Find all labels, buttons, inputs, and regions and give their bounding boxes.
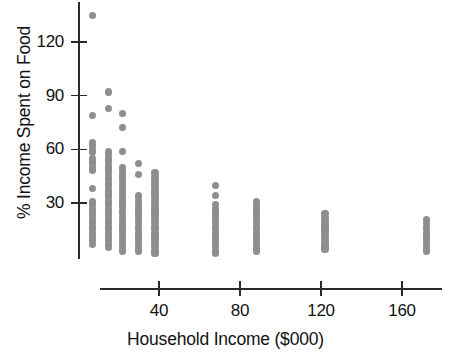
y-axis-title: % Income Spent on Food: [14, 13, 35, 233]
data-point: [135, 160, 142, 167]
data-point: [105, 105, 112, 112]
data-point: [119, 110, 126, 117]
data-point: [119, 148, 126, 155]
data-point: [89, 112, 96, 119]
data-point: [151, 249, 158, 256]
data-point: [135, 171, 142, 178]
data-point: [212, 249, 219, 256]
data-point: [89, 167, 96, 174]
data-points-layer: [0, 0, 451, 360]
data-point: [212, 192, 219, 199]
data-point: [105, 244, 112, 251]
data-point: [89, 12, 96, 19]
data-point: [212, 182, 219, 189]
data-point: [253, 248, 260, 255]
data-point: [105, 88, 112, 95]
scatter-plot: 306090120 4080120160 Household Income ($…: [0, 0, 451, 360]
x-axis-title: Household Income ($000): [0, 329, 451, 350]
data-point: [321, 246, 328, 253]
data-point: [423, 248, 430, 255]
data-point: [119, 124, 126, 131]
data-point: [135, 248, 142, 255]
data-point: [119, 248, 126, 255]
data-point: [89, 241, 96, 248]
data-point: [89, 185, 96, 192]
